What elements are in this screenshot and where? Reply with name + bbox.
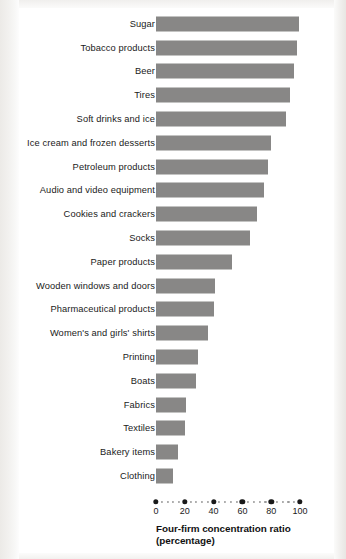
bar-row: Boats [0, 369, 346, 393]
page-edge-bottom [0, 553, 346, 559]
axis-tick-label: 80 [266, 506, 276, 516]
bar-row: Audio and video equipment [0, 179, 346, 203]
bar-category-label: Tobacco products [81, 43, 155, 53]
bar-row: Printing [0, 345, 346, 369]
bar-category-label: Audio and video equipment [40, 185, 155, 195]
x-axis-title: Four-firm concentration ratio (percentag… [156, 523, 346, 548]
bar [156, 278, 215, 293]
bar-category-label: Ice cream and frozen desserts [27, 138, 155, 148]
bar [156, 40, 297, 55]
axis-minor-dot [276, 501, 278, 503]
page-edge-left [0, 0, 19, 559]
axis-minor-dot [264, 501, 266, 503]
bar [156, 159, 268, 174]
bar [156, 207, 257, 222]
plot-area: SugarTobacco productsBeerTiresSoft drink… [0, 12, 346, 488]
bar-category-label: Women's and girls' shirts [50, 328, 155, 338]
bar [156, 254, 232, 269]
x-axis [156, 498, 300, 506]
bar-category-label: Fabrics [124, 400, 155, 410]
axis-tick-dot [240, 499, 245, 504]
bar-row: Fabrics [0, 393, 346, 417]
bar-category-label: Pharmaceutical products [50, 304, 155, 314]
x-axis-title-line2: (percentage) [156, 535, 346, 547]
bar [156, 183, 264, 198]
axis-tick-dot [268, 499, 273, 504]
bar [156, 326, 208, 341]
axis-minor-dot [195, 501, 197, 503]
bar-row: Socks [0, 226, 346, 250]
axis-minor-dot [224, 501, 226, 503]
bar-row: Clothing [0, 464, 346, 488]
axis-tick-dot [182, 499, 187, 504]
bar [156, 231, 250, 246]
bar-row: Textiles [0, 417, 346, 441]
axis-minor-dot [178, 501, 180, 503]
axis-tick-label: 60 [237, 506, 247, 516]
axis-tick-label: 0 [153, 506, 158, 516]
bar-category-label: Tires [134, 90, 155, 100]
bar [156, 112, 286, 127]
bar-category-label: Bakery items [100, 447, 155, 457]
axis-minor-dot [166, 501, 168, 503]
bar-row: Paper products [0, 250, 346, 274]
bar-category-label: Petroleum products [73, 162, 155, 172]
bar [156, 350, 198, 365]
bar-row: Women's and girls' shirts [0, 321, 346, 345]
bar-row: Pharmaceutical products [0, 298, 346, 322]
axis-minor-dot [236, 501, 238, 503]
axis-minor-dot [201, 501, 203, 503]
axis-tick-dot [211, 499, 216, 504]
axis-minor-dot [247, 501, 249, 503]
bar-row: Bakery items [0, 440, 346, 464]
axis-tick-label: 100 [292, 506, 307, 516]
chart-page: SugarTobacco productsBeerTiresSoft drink… [0, 0, 346, 559]
axis-minor-dot [287, 501, 289, 503]
x-axis-title-line1: Four-firm concentration ratio [156, 523, 346, 535]
bar-category-label: Cookies and crackers [64, 209, 155, 219]
axis-tick-label: 40 [209, 506, 219, 516]
bar [156, 135, 271, 150]
bar-category-label: Socks [129, 233, 155, 243]
bar-category-label: Beer [135, 66, 155, 76]
axis-minor-dot [259, 501, 261, 503]
page-edge-right [334, 0, 346, 559]
bar-category-label: Wooden windows and doors [36, 281, 155, 291]
axis-minor-dot [207, 501, 209, 503]
bar-row: Ice cream and frozen desserts [0, 131, 346, 155]
bar-row: Soft drinks and ice [0, 107, 346, 131]
bar [156, 16, 299, 31]
axis-minor-dot [253, 501, 255, 503]
axis-minor-dot [230, 501, 232, 503]
bar-row: Tires [0, 83, 346, 107]
bar-row: Wooden windows and doors [0, 274, 346, 298]
bar-category-label: Sugar [130, 19, 155, 29]
axis-tick-label: 20 [180, 506, 190, 516]
axis-tick-dot [153, 499, 158, 504]
axis-minor-dot [218, 501, 220, 503]
bar-row: Petroleum products [0, 155, 346, 179]
bar-row: Sugar [0, 12, 346, 36]
axis-minor-dot [282, 501, 284, 503]
bar-row: Beer [0, 60, 346, 84]
bar [156, 397, 186, 412]
bar-chart: SugarTobacco productsBeerTiresSoft drink… [0, 0, 346, 559]
bar-row: Tobacco products [0, 36, 346, 60]
bar [156, 302, 214, 317]
axis-minor-dot [190, 501, 192, 503]
bar [156, 421, 185, 436]
bar [156, 64, 294, 79]
bar [156, 373, 196, 388]
bar-category-label: Printing [123, 352, 155, 362]
bar-category-label: Soft drinks and ice [77, 114, 155, 124]
bar [156, 469, 173, 484]
bar-category-label: Boats [131, 376, 155, 386]
bar-category-label: Textiles [123, 423, 155, 433]
axis-minor-dot [293, 501, 295, 503]
axis-minor-dot [161, 501, 163, 503]
axis-minor-dot [172, 501, 174, 503]
bar [156, 445, 178, 460]
page-edge-top [0, 0, 346, 8]
bar-row: Cookies and crackers [0, 202, 346, 226]
bar [156, 88, 290, 103]
